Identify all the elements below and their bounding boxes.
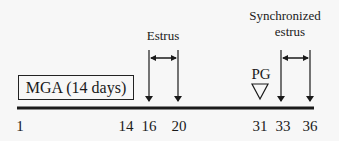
day-label-36: 36 (303, 118, 318, 134)
day-label-14: 14 (119, 118, 134, 134)
synchronized-label: Synchronized (249, 9, 320, 23)
day-label-33: 33 (276, 118, 291, 134)
synchronized-estrus-arrows (281, 50, 310, 101)
day-label-1: 1 (16, 118, 24, 134)
synchronized-estrus-label: estrus (275, 25, 305, 39)
day-label-20: 20 (172, 118, 187, 134)
pg-triangle-icon (252, 84, 268, 99)
day-label-16: 16 (142, 118, 157, 134)
mga-treatment-box: MGA (14 days) (18, 75, 134, 100)
estrus-arrows (149, 50, 178, 101)
estrus-label: Estrus (147, 29, 180, 43)
pg-label: PG (251, 67, 270, 82)
day-label-31: 31 (253, 118, 268, 134)
